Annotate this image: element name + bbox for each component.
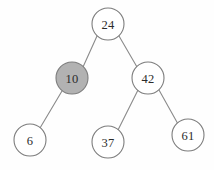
tree-node-61[interactable]: 61 [172,119,204,151]
tree-edge-n10-n6 [40,91,62,128]
node-label-6: 6 [27,134,33,148]
tree-node-10[interactable]: 10 [56,62,88,94]
tree-edge-n42-n61 [159,90,178,124]
tree-node-37[interactable]: 37 [92,126,124,158]
binary-tree-figure: 24104263761 [0,0,214,170]
tree-edge-n24-n10 [83,36,97,67]
tree-node-6[interactable]: 6 [14,124,46,156]
tree-edge-n42-n37 [118,90,138,130]
tree-node-42[interactable]: 42 [132,62,164,94]
tree-edge-n24-n42 [119,36,137,67]
node-label-10: 10 [66,72,79,86]
node-layer: 24104263761 [14,8,204,158]
node-label-24: 24 [102,18,115,32]
node-label-42: 42 [142,72,155,86]
node-label-37: 37 [102,136,115,150]
tree-node-24[interactable]: 24 [92,8,124,40]
node-label-61: 61 [182,129,195,143]
tree-canvas: 24104263761 [0,0,214,170]
